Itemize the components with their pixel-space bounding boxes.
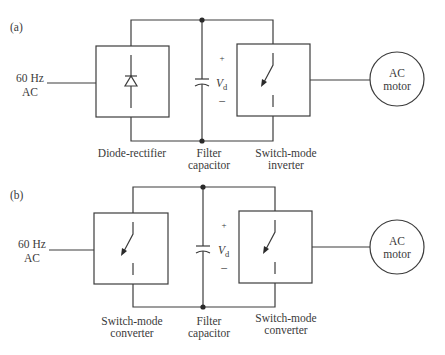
junction-dot: [199, 138, 204, 143]
motor-label-line2: motor: [383, 80, 411, 92]
capacitor-label-line1: Filter: [197, 315, 222, 327]
motor-label-line1: AC: [389, 235, 405, 247]
inverter-label-line1: Switch-mode: [255, 147, 316, 159]
motor-label-line1: AC: [389, 67, 405, 79]
left-converter-label-line1: Switch-mode: [101, 315, 162, 327]
motor-drive-diagrams: (a) 60 Hz AC + Vd –: [0, 0, 445, 355]
panel-label-a: (a): [10, 21, 23, 34]
minus-sign: –: [220, 261, 227, 273]
junction-dot: [199, 17, 204, 22]
source-label-line1: 60 Hz: [16, 72, 44, 84]
capacitor-label-line2: capacitor: [188, 159, 230, 172]
left-converter-label-line2: converter: [110, 327, 154, 339]
junction-dot: [200, 304, 205, 309]
capacitor-label-line2: capacitor: [188, 327, 230, 340]
voltage-label: Vd: [216, 77, 228, 92]
capacitor-label-line1: Filter: [197, 147, 222, 159]
switch-mode-converter-block: [94, 213, 168, 284]
minus-sign: –: [218, 94, 225, 106]
ac-motor-icon: [370, 220, 424, 274]
plus-sign: +: [221, 220, 226, 230]
diagram-a: (a) 60 Hz AC + Vd –: [10, 17, 424, 172]
plus-sign: +: [219, 53, 224, 63]
inverter-label-line2: inverter: [268, 159, 304, 171]
voltage-label: Vd: [218, 244, 230, 259]
panel-label-b: (b): [10, 189, 24, 202]
dc-bus-top-wire: [133, 187, 275, 213]
rectifier-label: Diode-rectifier: [98, 147, 166, 159]
right-converter-label-line1: Switch-mode: [255, 312, 316, 324]
source-label-line2: AC: [22, 86, 38, 98]
junction-dot: [200, 184, 205, 189]
right-converter-label-line2: converter: [264, 324, 308, 336]
source-label-line2: AC: [24, 252, 40, 264]
diagram-b: (b) 60 Hz AC + Vd –: [10, 184, 424, 340]
source-label-line1: 60 Hz: [18, 238, 46, 250]
ac-motor-icon: [370, 52, 424, 106]
dc-bus-bottom-wire: [133, 283, 275, 307]
motor-label-line2: motor: [383, 248, 411, 260]
